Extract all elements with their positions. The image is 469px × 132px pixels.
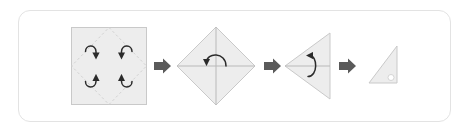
- corner-dot-icon: [388, 75, 394, 81]
- arrow-right-icon: [264, 59, 281, 74]
- folding-diagram: [0, 0, 469, 132]
- step-arrow-2-to-3: [264, 59, 281, 74]
- step-4-final-right-triangle: [369, 46, 397, 83]
- step-3-left-pointing-triangle: [285, 33, 330, 99]
- arrow-right-icon: [339, 59, 356, 74]
- step-arrow-1-to-2: [154, 59, 171, 74]
- step-arrow-3-to-4: [339, 59, 356, 74]
- step-2-diamond-folded: [177, 27, 255, 105]
- step-1-square-with-diagonal-creases: [72, 28, 147, 105]
- arrow-right-icon: [154, 59, 171, 74]
- figure-canvas: Paper folding sequence Four-stage origam…: [0, 0, 469, 132]
- paper-square: [72, 28, 147, 105]
